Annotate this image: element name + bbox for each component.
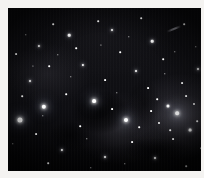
star-point (97, 20, 99, 22)
star-point (70, 76, 71, 77)
star-point (193, 103, 195, 105)
star-point (147, 87, 149, 89)
star-point (185, 95, 187, 97)
star-point (48, 65, 50, 67)
milky-way-background-glow (8, 8, 201, 171)
star-point (174, 51, 175, 52)
star-point (189, 129, 192, 132)
star-point (15, 53, 17, 55)
star-point (111, 108, 113, 110)
plate-scan-striations (8, 8, 201, 171)
star-point (181, 82, 183, 84)
star-point (68, 34, 71, 37)
star-point (100, 44, 101, 45)
star-point (25, 34, 26, 35)
star-point (35, 133, 37, 135)
edge-vignette (8, 8, 201, 171)
star-point (185, 165, 187, 167)
star-point (197, 68, 199, 70)
star-point (131, 141, 133, 143)
star-field-plate (8, 8, 201, 171)
star-point (128, 36, 129, 37)
star-point (196, 120, 198, 122)
star-point (200, 147, 201, 149)
star-point (61, 149, 63, 151)
star-point (38, 45, 40, 47)
star-point (17, 117, 22, 122)
star-point (47, 162, 49, 164)
star-point (32, 65, 33, 66)
star-point (116, 92, 117, 93)
star-point (21, 95, 23, 97)
star-point (57, 54, 58, 55)
star-point (104, 79, 106, 81)
unresolved-star-haze-layer-1 (8, 8, 201, 171)
star-point (104, 156, 106, 158)
star-point (158, 122, 160, 124)
star-point (29, 80, 31, 82)
star-point (151, 40, 154, 43)
star-point (119, 51, 121, 53)
star-point (167, 105, 170, 108)
unresolved-star-haze-layer-2 (8, 8, 201, 171)
star-point (150, 110, 152, 112)
star-point (65, 93, 67, 95)
star-point (75, 47, 77, 49)
star-point (135, 70, 137, 72)
astronomy-image (0, 0, 204, 178)
dark-nebula-dust-lanes (8, 8, 201, 171)
star-point (183, 23, 185, 25)
star-point (42, 115, 43, 116)
star-point (12, 143, 13, 144)
star-point (82, 64, 84, 66)
star-point (52, 23, 54, 25)
star-point (111, 29, 113, 31)
star-point (138, 126, 140, 128)
diagonal-streak-artifact (166, 25, 182, 33)
star-point (169, 129, 171, 131)
star-point (124, 118, 128, 122)
star-point (175, 111, 179, 115)
star-point (42, 105, 46, 109)
star-point (86, 138, 87, 139)
star-point (162, 58, 164, 60)
star-point (172, 138, 174, 140)
star-point (90, 167, 91, 168)
star-point (195, 46, 196, 47)
star-point (124, 163, 125, 164)
star-point (164, 73, 165, 74)
star-point (79, 125, 81, 127)
unresolved-star-haze-layer-3 (8, 8, 201, 171)
star-point (154, 157, 156, 159)
star-point (156, 98, 158, 100)
star-point (140, 17, 142, 19)
star-point (92, 99, 96, 103)
